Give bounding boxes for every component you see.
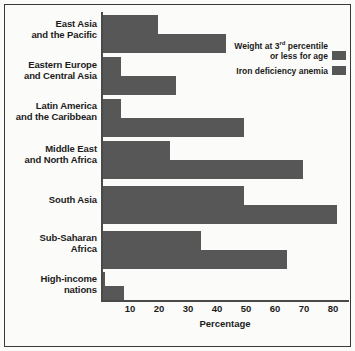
legend-swatch-anemia-icon [332,66,346,75]
category-label-line: Latin America [3,100,97,111]
legend-swatch-weight-icon [332,51,346,60]
category-label-line: and the Caribbean [3,111,97,122]
bar-anemia-middle-east [102,160,303,179]
legend-label-weight-part2: percentile [285,41,328,51]
category-label-south-asia: South Asia [3,194,97,205]
category-label-eastern-europe: Eastern Europe and Central Asia [3,59,97,81]
bar-weight-east-asia [102,15,158,34]
legend-label-weight-part1: Weight at 3 [234,41,279,51]
bar-anemia-east-asia [102,34,226,53]
legend-label-anemia: Iron deficiency anemia [236,66,332,76]
category-label-line: High-income [3,273,97,284]
category-label-middle-east: Middle East and North Africa [3,143,97,165]
bar-weight-middle-east [102,141,170,160]
bar-anemia-latin-america [102,118,244,137]
bar-anemia-sub-saharan-africa [102,250,287,269]
x-tick-60: 60 [260,303,290,314]
chart-figure: East Asia and the Pacific Eastern Europe… [0,0,355,351]
legend-label-weight: Weight at 3rd percentile or less for age [234,38,332,61]
legend-label-anemia-line1: Iron deficiency anemia [236,66,328,76]
category-label-line: and Central Asia [3,70,97,81]
category-label-line: Eastern Europe [3,59,97,70]
chart-legend: Weight at 3rd percentile or less for age… [218,38,346,81]
bar-weight-latin-america [102,99,121,118]
x-tick-20: 20 [144,303,174,314]
bar-weight-eastern-europe [102,57,121,76]
x-tick-10: 10 [115,303,145,314]
category-label-line: South Asia [3,194,97,205]
category-label-line: Sub-Saharan [3,232,97,243]
category-label-line: Middle East [3,143,97,154]
category-label-high-income-nations: High-income nations [3,273,97,295]
category-label-line: and the Pacific [3,29,97,40]
legend-label-weight-line2: or less for age [234,51,328,61]
category-label-line: and North Africa [3,154,97,165]
x-tick-40: 40 [202,303,232,314]
x-tick-80: 80 [318,303,348,314]
category-label-line: East Asia [3,18,97,29]
category-label-east-asia: East Asia and the Pacific [3,18,97,40]
x-tick-70: 70 [289,303,319,314]
plot-area: East Asia and the Pacific Eastern Europe… [0,0,355,351]
bar-anemia-eastern-europe [102,76,176,95]
category-label-sub-saharan-africa: Sub-Saharan Africa [3,232,97,254]
x-axis-line [101,300,349,302]
category-label-line: Africa [3,243,97,254]
x-axis-label: Percentage [101,318,349,329]
bar-anemia-high-income-nations [102,286,124,300]
x-tick-30: 30 [173,303,203,314]
bar-anemia-south-asia [102,205,337,224]
y-axis-line [101,12,103,301]
x-tick-50: 50 [231,303,261,314]
category-label-line: nations [3,284,97,295]
legend-item-weight: Weight at 3rd percentile or less for age [218,38,346,61]
bar-weight-south-asia [102,186,244,205]
legend-item-anemia: Iron deficiency anemia [218,66,346,76]
category-label-latin-america: Latin America and the Caribbean [3,100,97,122]
bar-weight-sub-saharan-africa [102,231,201,250]
